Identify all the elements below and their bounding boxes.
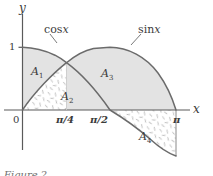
y-tick-label-1: 1 [9,42,15,52]
x-tick-label-pi-over-4: π/4 [56,115,74,125]
region-label-A2: A2 [61,91,73,105]
figure-container: y x 1 0 π/4 π/2 π cosx sinx A1 A2 A3 A4 … [0,0,213,176]
region-A3-fill [67,47,177,110]
x-tick-label-pi: π [173,115,180,125]
region-label-A3: A3 [101,68,113,82]
region-label-A1: A1 [31,66,43,80]
cos-curve-label-variable: x [62,23,68,36]
y-axis-label: y [19,2,26,14]
region-label-A1-letter: A [31,65,39,78]
cos-curve-label-text: cos [44,23,62,36]
cos-curve-label: cosx [44,24,69,35]
region-label-A3-subscript: 3 [109,74,113,82]
region-label-A4: A4 [139,131,151,145]
sin-curve-label: sinx [138,24,160,35]
sin-curve-label-text: sin [138,23,154,36]
sin-curve-label-variable: x [154,23,160,36]
region-label-A4-letter: A [139,130,147,143]
x-axis-label: x [193,103,200,115]
plot-svg [0,0,213,176]
region-label-A1-subscript: 1 [39,72,43,80]
region-label-A4-subscript: 4 [147,137,151,145]
region-label-A2-subscript: 2 [69,97,73,105]
x-tick-label-0: 0 [13,115,19,125]
region-label-A2-letter: A [61,90,69,103]
figure-caption: Figure 2 [4,169,47,176]
x-tick-label-pi-over-2: π/2 [90,115,108,125]
region-label-A3-letter: A [101,67,109,80]
